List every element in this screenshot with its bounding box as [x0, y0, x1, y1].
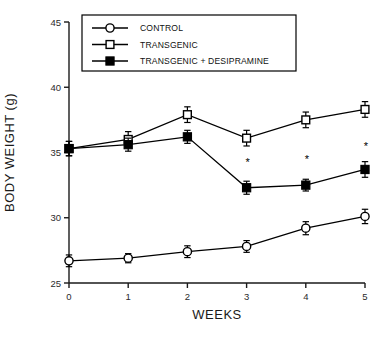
figure-container: 2530354045012345WEEKSBODY WEIGHT (g)***C…: [0, 0, 389, 342]
significance-asterisk: *: [245, 156, 250, 168]
data-point-marker: [184, 111, 192, 119]
legend-label-control: CONTROL: [140, 23, 183, 33]
data-point-marker: [183, 248, 191, 256]
data-point-marker: [183, 133, 191, 141]
legend-marker-filled-square: [106, 57, 114, 65]
significance-asterisk: *: [364, 140, 369, 152]
x-tick-label: 5: [362, 291, 367, 302]
significance-asterisk: *: [305, 153, 310, 165]
x-tick-label: 1: [126, 291, 131, 302]
x-tick-label: 0: [66, 291, 71, 302]
legend-marker-open-circle: [106, 24, 114, 32]
data-point-marker: [243, 242, 251, 250]
data-point-marker: [302, 181, 310, 189]
data-point-marker: [361, 106, 369, 114]
data-point-marker: [124, 141, 132, 149]
x-axis-title: WEEKS: [192, 307, 241, 322]
data-point-marker: [65, 257, 73, 265]
x-tick-label: 4: [303, 291, 308, 302]
legend-label-transgenic-desipramine: TRANSGENIC + DESIPRAMINE: [140, 56, 269, 66]
y-axis-title: BODY WEIGHT (g): [2, 93, 17, 212]
y-tick-label: 35: [50, 147, 61, 158]
y-tick-label: 25: [50, 278, 61, 289]
data-point-marker: [243, 184, 251, 192]
data-point-marker: [302, 224, 310, 232]
data-point-marker: [361, 165, 369, 173]
data-point-marker: [302, 116, 310, 124]
series-line-transgenic: [69, 109, 365, 148]
data-point-marker: [65, 144, 73, 152]
x-tick-label: 2: [185, 291, 190, 302]
series-line-transgenic-desipramine: [69, 137, 365, 188]
y-tick-label: 45: [50, 17, 61, 28]
y-tick-label: 40: [50, 82, 61, 93]
chart-canvas: 2530354045012345WEEKSBODY WEIGHT (g)***C…: [0, 0, 389, 342]
data-point-marker: [361, 212, 369, 220]
data-point-marker: [124, 254, 132, 262]
series-line-control: [69, 216, 365, 260]
legend-marker-open-square: [106, 41, 114, 49]
data-point-marker: [243, 134, 251, 142]
legend-label-transgenic: TRANSGENIC: [140, 40, 198, 50]
x-tick-label: 3: [244, 291, 249, 302]
y-tick-label: 30: [50, 212, 61, 223]
